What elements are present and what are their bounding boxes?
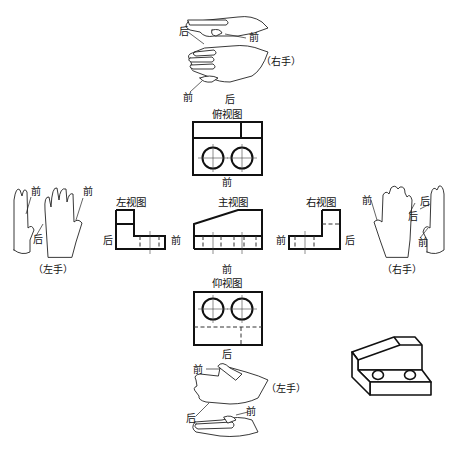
top-hand-label-front: 前: [249, 33, 259, 43]
bottom-view: [194, 292, 262, 345]
right-hand-label-front-2: 前: [418, 238, 428, 248]
drawing-canvas: [0, 0, 458, 451]
isometric-block: [352, 337, 431, 395]
left-hand-label-front-2: 前: [83, 187, 93, 197]
projection-diagram: 后 前 （右手） 前 后 俯视图 前 左视图 后 前 主视图 前 右视图 前 后…: [0, 0, 458, 451]
right-view-back-label: 后: [345, 236, 355, 246]
right-hand-label-front: 前: [362, 196, 372, 206]
left-view-front-label: 前: [171, 236, 181, 246]
left-hand-label-front: 前: [31, 187, 41, 197]
bottom-hand-label-front: 前: [193, 365, 203, 375]
bottom-view-back-label: 后: [222, 350, 232, 360]
left-hand-caption: （左手）: [33, 265, 73, 275]
top-view-title: 俯视图: [212, 109, 242, 120]
right-hand-caption: （右手）: [382, 265, 422, 275]
right-hand-label-back-2: 后: [408, 212, 418, 222]
right-hand-label-back: 后: [420, 197, 430, 207]
right-view-title: 右视图: [306, 197, 336, 208]
top-hand-illustration: [186, 17, 268, 92]
front-view-title: 主视图: [218, 197, 248, 208]
right-view: [289, 210, 340, 254]
left-view-title: 左视图: [116, 197, 146, 208]
bottom-hand-caption: （左手）: [266, 384, 306, 394]
top-hand-caption: （右手）: [261, 57, 301, 67]
front-view: [194, 210, 262, 254]
bottom-hand-label-front-2: 前: [246, 407, 256, 417]
left-view: [116, 210, 165, 254]
bottom-hand-illustration: [193, 363, 268, 436]
top-view: [193, 122, 262, 175]
left-hand-label-back: 后: [33, 235, 43, 245]
left-view-back-label: 后: [103, 236, 113, 246]
top-hand-label-front-2: 前: [183, 93, 193, 103]
top-hand-label-back-2: 后: [225, 95, 235, 105]
bottom-hand-label-back: 后: [186, 414, 196, 424]
right-view-front-label: 前: [276, 236, 286, 246]
top-view-front-label: 前: [222, 178, 232, 188]
bottom-view-title: 仰视图: [212, 278, 242, 289]
top-hand-label-back: 后: [179, 27, 189, 37]
front-view-below-label: 前: [222, 265, 232, 275]
left-hand-illustration: [14, 188, 83, 257]
